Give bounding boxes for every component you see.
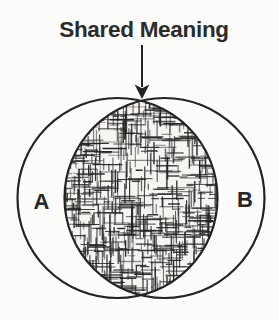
- down-arrow-icon: [135, 45, 150, 99]
- venn-diagram-figure: Shared Meaning A B: [0, 0, 279, 320]
- diagram-title: Shared Meaning: [59, 17, 229, 42]
- circle-a-label: A: [34, 189, 50, 214]
- circle-b-label: B: [237, 187, 253, 212]
- venn-diagram-canvas: Shared Meaning A B: [0, 0, 279, 320]
